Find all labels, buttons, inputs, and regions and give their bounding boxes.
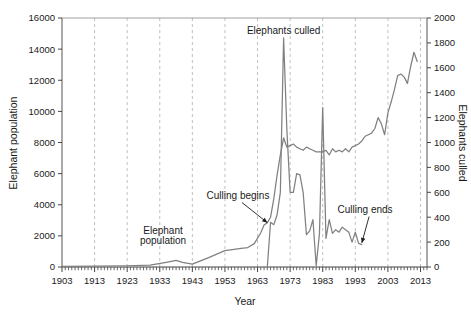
left-tick-label-4000: 4000 [34,199,55,210]
x-tick-label-1913: 1913 [84,275,105,286]
x-tick-label-1953: 1953 [214,275,235,286]
right-tick-label-1600: 1600 [434,62,455,73]
x-tick-label-2013: 2013 [410,275,431,286]
elephant-population-culling-chart: 0200040006000800010000120001400016000020… [0,0,471,314]
y-axis-left-title: Elephant population [7,96,19,189]
x-tick-label-1943: 1943 [182,275,203,286]
x-tick-label-2003: 2003 [377,275,398,286]
x-tick-label-1963: 1963 [247,275,268,286]
left-tick-label-14000: 14000 [29,44,55,55]
left-tick-label-16000: 16000 [29,12,55,23]
chart-container: 0200040006000800010000120001400016000020… [0,0,471,314]
right-tick-label-0: 0 [434,261,439,272]
right-tick-label-200: 200 [434,237,450,248]
x-axis-title: Year [234,295,256,307]
right-tick-label-600: 600 [434,187,450,198]
right-tick-label-1400: 1400 [434,87,455,98]
y-axis-right-title: Elephants culled [457,104,469,181]
left-tick-label-12000: 12000 [29,75,55,86]
left-tick-label-6000: 6000 [34,168,55,179]
annotation-label-elephants-culled: Elephants culled [247,25,320,36]
left-tick-label-10000: 10000 [29,106,55,117]
right-tick-label-1800: 1800 [434,37,455,48]
left-tick-label-0: 0 [50,261,55,272]
right-tick-label-1000: 1000 [434,137,455,148]
right-tick-label-1200: 1200 [434,112,455,123]
right-tick-label-800: 800 [434,162,450,173]
left-tick-label-8000: 8000 [34,137,55,148]
annotation-label-culling-begins: Culling begins [207,190,270,201]
x-tick-label-1993: 1993 [345,275,366,286]
x-tick-label-1903: 1903 [51,275,72,286]
x-tick-label-1973: 1973 [280,275,301,286]
annotation-label-population: population [140,235,186,246]
x-tick-label-1923: 1923 [117,275,138,286]
left-tick-label-2000: 2000 [34,230,55,241]
right-tick-label-2000: 2000 [434,12,455,23]
right-tick-label-400: 400 [434,212,450,223]
x-tick-label-1933: 1933 [149,275,170,286]
annotation-label-culling-ends: Culling ends [338,204,393,215]
x-tick-label-1983: 1983 [312,275,333,286]
